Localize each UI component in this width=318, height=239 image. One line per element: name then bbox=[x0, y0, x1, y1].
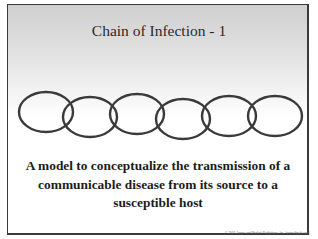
body-line: communicable disease from its source to … bbox=[0, 176, 316, 195]
body-line: susceptible host bbox=[0, 194, 316, 213]
copyright-notice: © 2005 Jones and Bartlett Publishers, In… bbox=[225, 231, 310, 235]
body-line: A model to conceptualize the transmissio… bbox=[0, 157, 316, 176]
slide-body-text: A model to conceptualize the transmissio… bbox=[0, 157, 316, 213]
